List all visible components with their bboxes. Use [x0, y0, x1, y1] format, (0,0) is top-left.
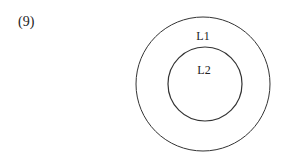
inner-circle-l2	[168, 47, 242, 121]
nested-circles-diagram: L1 L2	[0, 0, 282, 160]
outer-circle-label: L1	[196, 29, 209, 43]
inner-circle-label: L2	[197, 63, 210, 77]
